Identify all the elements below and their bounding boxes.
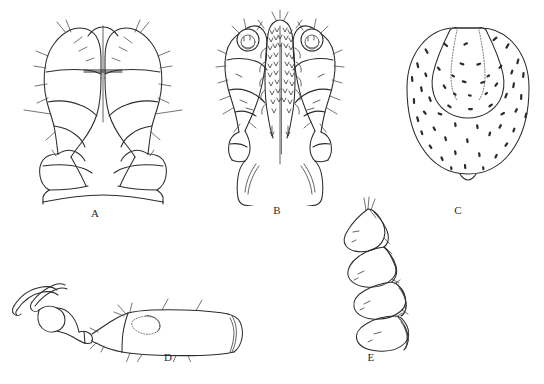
panel-a-drawing [8,6,198,206]
panel-label-e: E [359,351,383,363]
panel-c-drawing [400,18,536,198]
panel-d-drawing [6,272,266,362]
panel-label-d: D [156,351,180,363]
panel-label-b: B [265,204,289,216]
panel-label-c: C [446,204,470,216]
panel-label-a: A [83,207,107,219]
figure-plate: A [0,0,544,384]
panel-b-drawing [200,4,360,206]
panel-e-drawing [326,196,436,356]
